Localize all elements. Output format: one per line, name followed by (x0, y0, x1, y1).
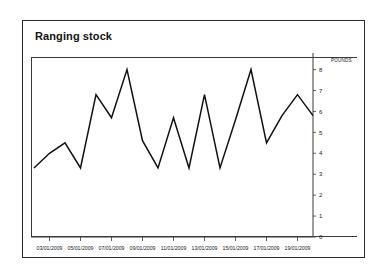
x-tick-label: 17/01/2009 (254, 245, 280, 251)
y-tick-label: 2 (319, 192, 323, 198)
y-tick-label: 7 (319, 88, 323, 94)
screenshot-root: Ranging stock 012345678 03/01/200905/01/… (0, 0, 387, 280)
x-tick-label: 11/01/2009 (161, 245, 187, 251)
x-tick-label: 09/01/2009 (130, 245, 156, 251)
x-axis (31, 237, 313, 241)
x-tick-label: 07/01/2009 (99, 245, 125, 251)
series-line-ranging-stock (34, 70, 313, 168)
y-tick-label: 3 (319, 171, 323, 177)
x-tick-label: 13/01/2009 (192, 245, 218, 251)
chart-card: Ranging stock 012345678 03/01/200905/01/… (22, 20, 365, 258)
y-tick-label: 4 (319, 150, 323, 156)
y-tick-label: 5 (319, 130, 323, 136)
data-series (34, 70, 313, 168)
line-chart: 012345678 03/01/200905/01/200907/01/2009… (23, 21, 366, 259)
x-tick-label: 05/01/2009 (68, 245, 94, 251)
x-tick-label: 19/01/2009 (285, 245, 311, 251)
y-axis: 012345678 (313, 53, 323, 240)
x-tick-label: 15/01/2009 (223, 245, 249, 251)
y-tick-label: 6 (319, 109, 323, 115)
y-tick-label: 0 (319, 234, 323, 240)
x-axis-labels: 03/01/200905/01/200907/01/200909/01/2009… (37, 245, 311, 251)
x-tick-label: 03/01/2009 (37, 245, 63, 251)
y-tick-label: 1 (319, 213, 323, 219)
y-tick-label: 8 (319, 67, 323, 73)
y-axis-unit-label: POUNDS (331, 58, 352, 63)
